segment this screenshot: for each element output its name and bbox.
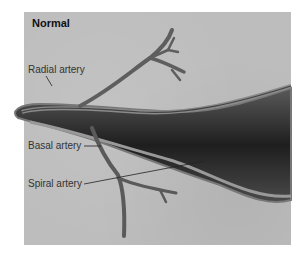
figure-title: Normal	[32, 17, 70, 29]
label-basal-artery: Basal artery	[28, 140, 81, 151]
label-spiral-artery: Spiral artery	[28, 178, 82, 189]
label-radial-artery: Radial artery	[28, 64, 85, 75]
upper-branches	[80, 30, 184, 106]
artery-illustration	[0, 0, 306, 255]
